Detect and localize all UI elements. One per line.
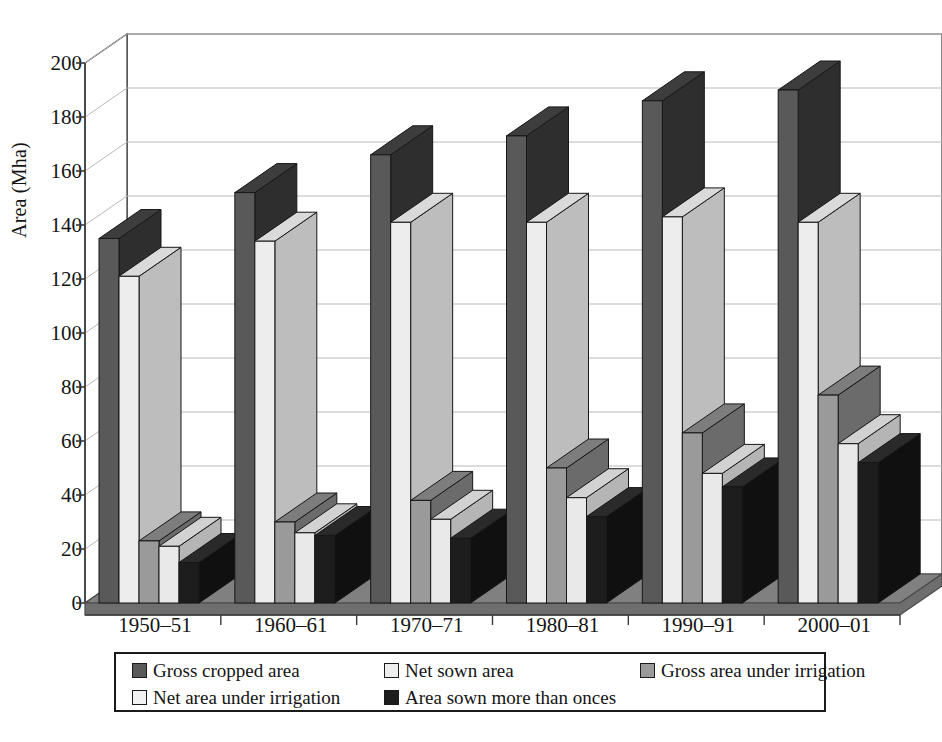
bar-front-face <box>642 101 662 603</box>
x-axis-tick-label: 2000–01 <box>797 613 871 638</box>
bar-front-face <box>798 222 818 603</box>
legend-item-gross-area-under-irrigation[interactable]: Gross area under irrigation <box>640 661 865 680</box>
legend-swatch-gross-cropped-area <box>132 663 147 678</box>
bar-front-face <box>391 222 411 603</box>
bar-front-face <box>858 463 878 603</box>
bar-front-face <box>451 538 471 603</box>
bar-front-face <box>587 517 607 603</box>
x-axis-tick-label: 1980–81 <box>526 613 600 638</box>
bar-front-face <box>119 276 139 603</box>
bar-chart: Area (Mha) 020406080100120140160180200 1… <box>0 0 942 742</box>
bar-front-face <box>507 136 527 603</box>
bar-front-face <box>778 90 798 603</box>
x-axis-tick-label: 1970–71 <box>390 613 464 638</box>
legend-item-net-area-under-irrigation[interactable]: Net area under irrigation <box>132 688 340 707</box>
x-axis-tick-label: 1960–61 <box>254 613 328 638</box>
bar-front-face <box>315 536 335 604</box>
bar-side-face <box>878 434 920 603</box>
legend-label-gross-area-under-irrigation: Gross area under irrigation <box>661 661 865 680</box>
legend-item-gross-cropped-area[interactable]: Gross cropped area <box>132 661 300 680</box>
legend-swatch-net-area-under-irrigation <box>132 690 147 705</box>
legend-label-net-area-under-irrigation: Net area under irrigation <box>153 688 340 707</box>
bar-front-face <box>431 519 451 603</box>
bar-front-face <box>139 541 159 603</box>
legend-row-1: Gross cropped area Net sown area Gross a… <box>116 656 824 684</box>
bar-front-face <box>838 444 858 603</box>
legend-swatch-area-sown-more-than-onces <box>384 690 399 705</box>
legend-item-area-sown-more-than-onces[interactable]: Area sown more than onces <box>384 688 616 707</box>
x-axis-tick-label: 1990–91 <box>662 613 736 638</box>
legend-row-2: Net area under irrigation Area sown more… <box>116 683 824 711</box>
bar-front-face <box>702 473 722 603</box>
legend-swatch-net-sown-area <box>384 663 399 678</box>
bar-front-face <box>567 498 587 603</box>
bar-front-face <box>159 546 179 603</box>
chart-legend: Gross cropped area Net sown area Gross a… <box>114 652 826 712</box>
x-axis-tick-label: 1950–51 <box>118 613 192 638</box>
legend-label-net-sown-area: Net sown area <box>405 661 514 680</box>
legend-item-net-sown-area[interactable]: Net sown area <box>384 661 514 680</box>
bar-front-face <box>662 217 682 603</box>
bar-front-face <box>682 433 702 603</box>
bar-6-5 <box>858 434 920 603</box>
bar-front-face <box>547 468 567 603</box>
bar-front-face <box>99 239 119 604</box>
legend-label-gross-cropped-area: Gross cropped area <box>153 661 300 680</box>
bar-front-face <box>255 241 275 603</box>
bar-front-face <box>722 487 742 603</box>
bar-front-face <box>818 395 838 603</box>
bar-front-face <box>235 193 255 603</box>
legend-label-area-sown-more-than-onces: Area sown more than onces <box>405 688 616 707</box>
bar-front-face <box>275 522 295 603</box>
bar-front-face <box>179 563 199 604</box>
bar-front-face <box>295 533 315 603</box>
bar-front-face <box>411 500 431 603</box>
bar-front-face <box>371 155 391 603</box>
bar-front-face <box>527 222 547 603</box>
legend-swatch-gross-area-under-irrigation <box>640 663 655 678</box>
